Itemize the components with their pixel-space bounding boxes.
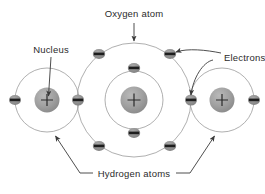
electrons-leader-2 xyxy=(176,50,221,53)
hydrogen-left-nucleus xyxy=(35,88,60,113)
electron xyxy=(9,95,21,105)
electron-shared-left xyxy=(72,94,84,105)
oxygen-nucleus xyxy=(121,87,148,114)
electron xyxy=(93,49,105,59)
electron xyxy=(93,141,105,151)
hydrogen-leader-right xyxy=(176,136,215,173)
label-nucleus: Nucleus xyxy=(33,44,69,55)
electron xyxy=(164,49,176,59)
label-electrons: Electrons xyxy=(224,52,265,63)
electron xyxy=(128,63,140,73)
electron xyxy=(164,141,176,151)
electron xyxy=(248,95,260,105)
electrons-leader-1 xyxy=(191,60,213,95)
diagram-canvas: Oxygen atom Nucleus Electrons Hydrogen a… xyxy=(0,0,265,194)
electron-shared-right xyxy=(185,94,197,105)
electron xyxy=(128,128,140,138)
water-molecule-diagram: Oxygen atom Nucleus Electrons Hydrogen a… xyxy=(0,0,265,194)
nuclei-group xyxy=(35,87,235,114)
hydrogen-leader-left xyxy=(56,136,94,173)
hydrogen-right-nucleus xyxy=(210,88,235,113)
label-oxygen-atom: Oxygen atom xyxy=(105,8,164,19)
label-hydrogen-atoms: Hydrogen atoms xyxy=(98,168,171,179)
